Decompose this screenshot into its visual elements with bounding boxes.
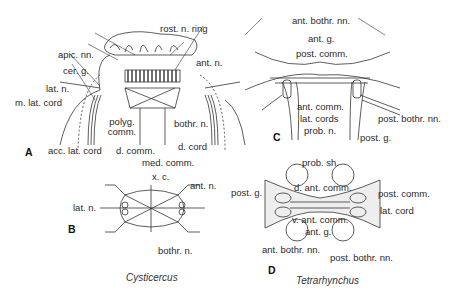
label-apic-nn: apic. nn.	[58, 50, 94, 60]
label-c-lat-cords: lat. cords	[300, 114, 339, 124]
label-c-post-g: post. g.	[360, 133, 391, 143]
label-rost-n-ring: rost. n. ring	[160, 24, 208, 34]
label-lat-n: lat. n.	[46, 84, 69, 94]
label-d-v-ant-comm: v. ant. comm.	[292, 215, 348, 225]
label-x-c: x. c.	[152, 172, 169, 182]
label-c-post-bothr-nn: post. bothr. nn.	[378, 114, 441, 124]
label-d-post-bothr-nn: post. bothr. nn.	[330, 253, 393, 263]
label-d-ant-bothr-nn: ant. bothr. nn.	[262, 245, 320, 255]
label-c-ant-g: ant. g.	[308, 34, 334, 44]
panel-label-c: C	[273, 131, 281, 143]
label-d-comm: d. comm.	[116, 146, 155, 156]
label-c-prob-n: prob. n.	[304, 126, 336, 136]
label-polyg-comm: polyg. comm.	[106, 117, 138, 137]
label-d-ant-comm: d. ant. comm.	[294, 183, 352, 193]
label-d-cord: d. cord	[178, 142, 207, 152]
label-b-ant-n: ant. n.	[190, 181, 216, 191]
label-d-prob-sh: prob. sh.	[302, 158, 339, 168]
label-d-lat-cord: lat. cord	[380, 206, 414, 216]
label-d-post-g: post. g.	[231, 188, 262, 198]
label-m-lat-cord: m. lat. cord	[15, 98, 62, 108]
label-bothr-n: bothr. n.	[174, 119, 208, 129]
label-ant-n: ant. n.	[196, 58, 222, 68]
label-b-bothr-n: bothr. n.	[158, 246, 192, 256]
label-b-lat-n: lat. n.	[73, 203, 96, 213]
label-c-post-comm: post. comm.	[296, 49, 348, 59]
label-acc-lat-cord: acc. lat. cord	[48, 146, 102, 156]
label-c-ant-comm: ant. comm.	[297, 102, 344, 112]
caption-cysticercus: Cysticercus	[126, 272, 178, 283]
label-cer-g: cer. g.	[63, 66, 89, 76]
caption-tetrarhynchus: Tetrarhynchus	[296, 275, 359, 286]
panel-label-a: A	[25, 146, 33, 158]
panel-label-b: B	[68, 223, 76, 235]
panel-label-d: D	[268, 264, 276, 276]
label-c-ant-bothr-nn: ant. bothr. nn.	[292, 16, 350, 26]
label-d-ant-g: ant. g.	[305, 227, 331, 237]
label-d-post-comm: post. comm.	[378, 189, 430, 199]
label-med-comm: med. comm.	[142, 158, 194, 168]
